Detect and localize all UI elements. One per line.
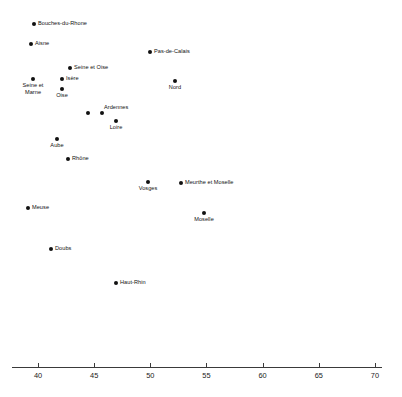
data-point-marker[interactable] (60, 87, 64, 91)
data-point-marker[interactable] (202, 211, 206, 215)
point-label: Nord (135, 84, 215, 91)
point-label: Moselle (164, 216, 244, 223)
point-label: Isère (66, 75, 79, 82)
plot-data-area: Bouches-du-RhoneAisnePas-de-CalaisSeine … (0, 0, 402, 397)
point-label: Seine et Oise (74, 64, 108, 71)
point-label: Vosges (108, 185, 188, 192)
data-point-marker[interactable] (60, 77, 64, 81)
data-point-marker[interactable] (86, 111, 90, 115)
data-point-marker[interactable] (31, 77, 35, 81)
point-label: Aube (17, 142, 97, 149)
point-label: Bouches-du-Rhone (38, 20, 87, 27)
point-label: Pas-de-Calais (154, 48, 190, 55)
data-point-marker[interactable] (148, 50, 152, 54)
data-point-marker[interactable] (100, 111, 104, 115)
point-label: Haut-Rhin (120, 279, 146, 286)
data-point-marker[interactable] (146, 180, 150, 184)
data-point-marker[interactable] (55, 137, 59, 141)
point-label: Ardennes (104, 104, 128, 111)
data-point-marker[interactable] (179, 181, 183, 185)
data-point-marker[interactable] (173, 79, 177, 83)
point-label: Aisne (35, 40, 49, 47)
data-point-marker[interactable] (29, 42, 33, 46)
point-label: Meurthe et Moselle (185, 179, 233, 186)
data-point-marker[interactable] (32, 22, 36, 26)
scatter-plot-figure: Bouches-du-RhoneAisnePas-de-CalaisSeine … (0, 0, 402, 397)
data-point-marker[interactable] (114, 281, 118, 285)
point-label: Oise (22, 92, 102, 99)
data-point-marker[interactable] (66, 157, 70, 161)
point-label: Loire (76, 124, 156, 131)
point-label: Doubs (55, 245, 71, 252)
data-point-marker[interactable] (68, 66, 72, 70)
data-point-marker[interactable] (49, 247, 53, 251)
data-point-marker[interactable] (114, 119, 118, 123)
data-point-marker[interactable] (26, 206, 30, 210)
point-label: Meuse (32, 204, 49, 211)
point-label: Rhône (72, 155, 89, 162)
